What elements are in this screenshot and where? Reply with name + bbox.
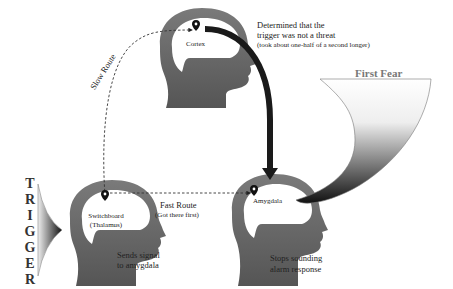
trigger-wedge [38, 184, 62, 276]
cortex-note-line2: trigger was not a threat [257, 30, 335, 40]
thalamus-label-line2: (Thalamus) [82, 221, 130, 230]
amygdala-note-line2: alarm response [270, 264, 321, 274]
thalamus-note-line1: Sends signal [117, 250, 160, 260]
first-fear-shape [296, 79, 431, 203]
cortex-label: Cortex [186, 40, 205, 49]
trigger-letter: G [22, 240, 38, 256]
trigger-letter: R [22, 192, 38, 208]
trigger-letter: I [22, 208, 38, 224]
fast-route-note: (Got there first) [155, 211, 199, 220]
cortex-note-line3: (took about one-half of a second longer) [257, 41, 370, 50]
fear-response-diagram [0, 0, 453, 289]
trigger-letter: T [22, 176, 38, 192]
amygdala-note-line1: Stops sounding [270, 253, 322, 263]
fast-route-label: Fast Route [160, 200, 197, 210]
amygdala-label: Amygdala [253, 197, 282, 206]
trigger-letter: E [22, 256, 38, 272]
thalamus-label-line1: Switchboard [82, 212, 130, 221]
thalamus-note-line2: to amygdala [117, 260, 159, 270]
cortex-note-line1: Determined that the [257, 20, 325, 30]
trigger-label: T R I G G E R [22, 176, 38, 288]
first-fear-title: First Fear [355, 67, 402, 79]
trigger-letter: R [22, 272, 38, 288]
trigger-letter: G [22, 224, 38, 240]
head-cortex [160, 8, 256, 108]
head-thalamus [70, 180, 166, 286]
